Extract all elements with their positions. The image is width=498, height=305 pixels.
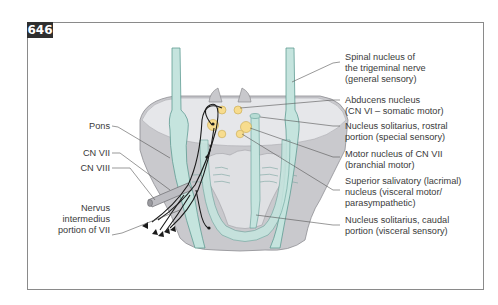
label-line: Nucleus solitarius, caudal [345,215,449,226]
label-pons: Pons [70,121,110,132]
label-line: (general sensory) [345,74,426,85]
label-superior-salivatory-nucleus: Superior salivatory (lacrimal) nucleus (… [345,176,461,209]
label-line: parasympathetic) [345,198,461,209]
label-line: nucleus (visceral motor/ [345,187,461,198]
label-abducens-nucleus: Abducens nucleus (CN VI – somatic motor) [345,95,444,117]
label-nucleus-solitarius-rostral: Nucleus solitarius, rostral portion (spe… [345,121,448,143]
label-line: Superior salivatory (lacrimal) [345,176,461,187]
label-line: Motor nucleus of CN VII [345,149,443,160]
label-cn-vii: CN VII [70,148,110,159]
label-motor-nucleus-cn-vii: Motor nucleus of CN VII (branchial motor… [345,149,443,171]
label-line: Nucleus solitarius, rostral [345,121,448,132]
label-line: Abducens nucleus [345,95,444,106]
label-line: portion of VII [40,225,110,236]
label-nervus-intermedius: Nervus intermedius portion of VII [40,203,110,236]
label-line: Spinal nucleus of [345,52,426,63]
label-line: Nervus [40,203,110,214]
label-line: the trigeminal nerve [345,63,426,74]
label-line: portion (special sensory) [345,132,448,143]
label-line: (branchial motor) [345,160,443,171]
label-line: portion (visceral sensory) [345,226,449,237]
label-nucleus-solitarius-caudal: Nucleus solitarius, caudal portion (visc… [345,215,449,237]
label-line: intermedius [40,214,110,225]
label-spinal-nucleus-trigeminal: Spinal nucleus of the trigeminal nerve (… [345,52,426,85]
label-line: (CN VI – somatic motor) [345,106,444,117]
label-cn-viii: CN VIII [70,163,110,174]
